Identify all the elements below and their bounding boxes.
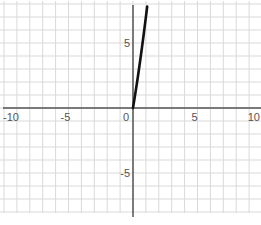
x-tick-label: 0 [123,111,129,123]
y-tick-label: 5 [124,37,130,49]
graph-plot: -10-505105-5 [0,0,261,225]
x-tick-label: -5 [61,111,71,123]
x-tick-label: -10 [3,111,19,123]
function-curve [133,6,147,108]
grid-lines [0,1,261,213]
x-tick-label: 10 [248,111,260,123]
y-tick-label: -5 [120,167,130,179]
axes [3,5,261,217]
x-tick-label: 5 [191,111,197,123]
